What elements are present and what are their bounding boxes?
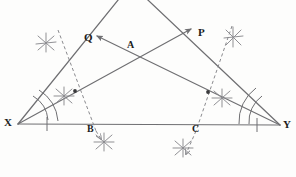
side-Y-apex bbox=[131, 0, 280, 125]
angle-arc-Y bbox=[239, 88, 262, 124]
dot-left-ray bbox=[73, 89, 77, 93]
perp-B-dashed bbox=[58, 30, 96, 131]
angle-arc-X-inner bbox=[33, 96, 48, 120]
label-Y: Y bbox=[283, 119, 291, 130]
arc-cross-below-B bbox=[94, 133, 114, 151]
label-B: B bbox=[87, 124, 94, 134]
label-P: P bbox=[198, 27, 205, 38]
perp-C-dashed-tail bbox=[186, 131, 196, 154]
geometry-figure: X Y P Q A B C bbox=[0, 0, 296, 177]
figure-canvas bbox=[0, 0, 296, 177]
side-X-apex bbox=[18, 0, 131, 124]
label-A: A bbox=[127, 40, 134, 50]
angle-arc-Y-inner bbox=[249, 96, 262, 124]
arc-cross-below-C bbox=[173, 139, 193, 157]
perp-C-dashed bbox=[196, 26, 232, 131]
intersection-dots bbox=[73, 89, 210, 94]
dot-right-ray bbox=[206, 90, 210, 94]
base-XY bbox=[18, 124, 280, 125]
angle-arc-X bbox=[33, 90, 58, 121]
label-Q: Q bbox=[84, 32, 93, 43]
arc-cross-upper-right bbox=[224, 27, 243, 47]
arc-cross-mid-right bbox=[212, 89, 232, 107]
ray-Y-to-Q bbox=[97, 36, 280, 125]
arc-cross-upper-left bbox=[36, 33, 56, 52]
arc-cross-mid-left bbox=[54, 87, 74, 105]
label-X: X bbox=[4, 117, 12, 128]
dashed-construction-lines bbox=[58, 26, 232, 154]
label-C: C bbox=[192, 124, 199, 134]
